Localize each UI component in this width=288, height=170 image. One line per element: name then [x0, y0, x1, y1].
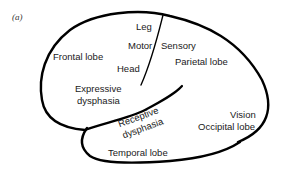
label-expressive-dysphasia-line1: Expressive: [75, 83, 121, 94]
label-parietal-lobe: Parietal lobe: [175, 56, 228, 67]
brain-diagram: (a) Leg Motor Sensory Head Frontal lobe …: [0, 0, 288, 170]
label-leg: Leg: [136, 21, 152, 32]
label-expressive-dysphasia-line2: dysphasia: [77, 95, 120, 106]
label-temporal-lobe: Temporal lobe: [108, 147, 168, 158]
label-vision: Vision: [230, 109, 256, 120]
label-motor: Motor: [128, 40, 152, 51]
label-sensory: Sensory: [161, 40, 196, 51]
label-occipital-lobe: Occipital lobe: [198, 121, 255, 132]
label-head: Head: [117, 63, 140, 74]
panel-label: (a): [12, 12, 23, 22]
label-frontal-lobe: Frontal lobe: [53, 51, 103, 62]
